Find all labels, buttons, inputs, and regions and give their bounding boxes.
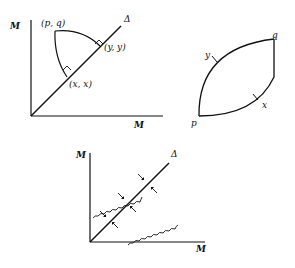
- axis-label-x: M: [195, 244, 207, 254]
- arrowheads: [103, 177, 154, 225]
- upper-arc: [55, 31, 100, 46]
- tick-mark-x: [253, 94, 258, 100]
- lower-arc: [55, 31, 67, 77]
- point-label-p: p: [191, 118, 197, 128]
- axis-label-y: M: [9, 21, 21, 31]
- point-label-x: x: [262, 100, 267, 110]
- figure-top-right: p q y x: [191, 30, 278, 128]
- diagonal-line: [31, 26, 121, 116]
- point-label-pq: (p, q): [41, 18, 66, 28]
- arrows: [100, 174, 157, 228]
- tick-mark-y: [212, 56, 217, 62]
- figure-top-left: M M Δ (p, q) (y, y) (x, x): [9, 14, 163, 130]
- axis-label-x: M: [133, 120, 145, 130]
- diagonal-line: [90, 163, 169, 242]
- diagonal-label: Δ: [123, 14, 131, 24]
- point-label-y: y: [204, 50, 211, 60]
- point-label-yy: (y, y): [104, 42, 126, 52]
- point-label-q: q: [272, 30, 278, 40]
- diagonal-label: Δ: [170, 149, 178, 159]
- figure-bottom: M M Δ: [75, 149, 207, 254]
- right-angle-marker: [63, 66, 71, 70]
- point-label-xx: (x, x): [69, 79, 92, 89]
- diagram-canvas: M M Δ (p, q) (y, y) (x, x) p q y x: [0, 0, 295, 268]
- axis-label-y: M: [75, 150, 87, 160]
